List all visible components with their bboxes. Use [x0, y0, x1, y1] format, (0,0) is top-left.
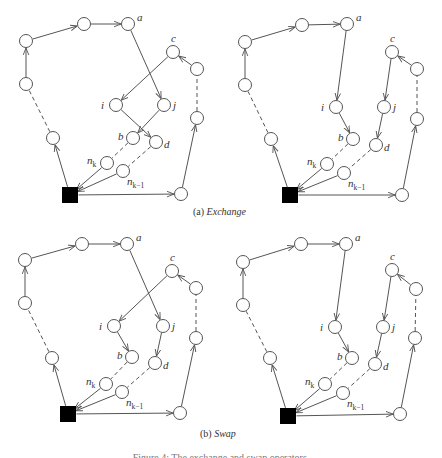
label-b: b: [337, 350, 343, 362]
edge-a-j: [130, 250, 160, 319]
edge-p1-p2: [250, 246, 295, 260]
edge-b-nk: [332, 144, 348, 159]
edge-l2-l1: [29, 90, 50, 131]
node-nk: [100, 378, 113, 391]
edge-i-b: [339, 113, 349, 133]
node-r3: [174, 407, 187, 420]
node-r3: [394, 408, 407, 421]
edge-r3-r2: [181, 345, 194, 406]
edge-b-nk: [330, 363, 347, 379]
node-c: [386, 264, 399, 277]
label-j: j: [390, 321, 395, 333]
label-b: b: [118, 130, 124, 142]
edge-l2-l1: [248, 91, 268, 132]
panel-exchange-after: acijbdnknk−1: [239, 11, 424, 203]
label-c: c: [390, 32, 395, 44]
depot-square: [282, 187, 298, 203]
caption-exchange-name: Exchange: [207, 206, 246, 217]
label-nk: nk: [305, 375, 315, 390]
edge-b-nk: [111, 362, 127, 379]
edge-a-i: [337, 31, 346, 100]
node-c: [167, 46, 180, 59]
label-nk: nk: [87, 154, 97, 169]
node-j: [158, 99, 171, 112]
panel-exchange-before: acijbdnknk−1: [20, 11, 204, 203]
edge-p1-p2: [252, 27, 296, 40]
edge-c-i: [121, 57, 168, 100]
edge-nk-depot: [294, 389, 319, 411]
node-r1: [410, 283, 423, 296]
node-a: [340, 238, 353, 251]
node-c: [166, 265, 179, 278]
edge-c-j: [385, 59, 391, 100]
node-r3: [175, 188, 188, 201]
caption-exchange: (a) Exchange: [193, 206, 246, 217]
edge-depot-r3: [76, 413, 173, 414]
node-d: [370, 139, 383, 152]
label-c: c: [171, 32, 176, 44]
edge-depot-l2: [273, 146, 287, 187]
edge-c-i: [119, 276, 167, 321]
node-r2: [411, 113, 424, 126]
node-j: [378, 101, 391, 114]
label-a: a: [137, 11, 143, 23]
node-b: [127, 132, 140, 145]
node-i: [329, 321, 342, 334]
node-nk: [101, 157, 114, 170]
label-nk1: nk−1: [347, 397, 364, 412]
label-b: b: [117, 349, 123, 361]
label-i: i: [321, 101, 324, 113]
edge-b-nk: [112, 143, 128, 158]
label-nk1: nk−1: [126, 396, 143, 411]
node-l1: [239, 79, 252, 92]
node-p2: [78, 18, 91, 31]
node-b: [346, 352, 359, 365]
edge-d-nk1: [349, 150, 370, 169]
edge-nk-depot: [297, 168, 322, 189]
edge-depot-l2: [54, 365, 66, 406]
edge-a-j: [131, 30, 161, 98]
label-b: b: [338, 131, 344, 143]
node-p2: [76, 238, 89, 251]
depot-square: [60, 406, 76, 422]
figure-caption: Figure 4: The exchange and swap operator…: [0, 449, 442, 458]
node-nk: [319, 378, 332, 391]
edge-r3-r2: [182, 125, 195, 187]
depot-square: [62, 187, 78, 203]
node-r2: [191, 112, 204, 125]
edge-depot-r3: [78, 194, 174, 195]
label-nk1: nk−1: [127, 175, 144, 190]
panel-swap-after: acijbdnknk−1: [237, 231, 423, 424]
label-c: c: [390, 250, 395, 262]
node-l2: [47, 132, 60, 145]
node-r1: [191, 63, 204, 76]
label-d: d: [383, 360, 389, 372]
node-l2: [265, 133, 278, 146]
edge-l2-l1: [28, 309, 49, 351]
node-j: [377, 321, 390, 334]
node-c: [386, 46, 399, 59]
label-d: d: [164, 138, 170, 150]
edge-d-nk1: [348, 369, 370, 389]
edge-d-nk1: [128, 147, 150, 167]
node-a: [122, 18, 135, 31]
label-c: c: [170, 251, 175, 263]
caption-exchange-prefix: (a): [193, 206, 207, 217]
node-p1: [237, 256, 250, 269]
node-l2: [46, 352, 59, 365]
label-a: a: [136, 231, 142, 243]
edge-j-d: [376, 334, 381, 357]
node-r3: [396, 189, 409, 202]
label-nk: nk: [307, 155, 317, 170]
caption-swap: (b) Swap: [200, 428, 236, 439]
edge-j-d: [156, 333, 161, 356]
edge-c-j: [384, 277, 391, 320]
edge-d-nk1: [127, 368, 149, 388]
node-p2: [295, 238, 308, 251]
node-a: [341, 18, 354, 31]
label-j: j: [170, 320, 175, 332]
edge-r1-c: [397, 274, 410, 284]
node-i: [108, 320, 121, 333]
edge-depot-l2: [55, 145, 68, 187]
node-nk: [321, 158, 334, 171]
